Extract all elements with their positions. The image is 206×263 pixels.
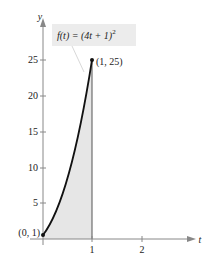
- y-tick-label: 15: [28, 126, 38, 137]
- shaded-area: [43, 60, 92, 239]
- point-label-start: (0, 1): [18, 227, 40, 239]
- function-label-text: f(t) = (4t + 1): [57, 30, 113, 42]
- y-tick-label: 20: [28, 90, 38, 101]
- x-tick-label: 1: [90, 244, 95, 255]
- point-end: [90, 58, 94, 62]
- x-tick-label: 2: [140, 244, 145, 255]
- point-start: [41, 233, 45, 237]
- y-tick-label: 5: [33, 197, 38, 208]
- function-exponent: 2: [112, 28, 116, 36]
- y-tick-label: 25: [28, 54, 38, 65]
- point-label-end: (1, 25): [96, 56, 123, 68]
- x-axis-arrow-icon: [187, 236, 196, 242]
- label-leader-line: [72, 46, 84, 72]
- function-label: f(t) = (4t + 1)2: [57, 28, 116, 42]
- x-axis-label: t: [199, 234, 202, 245]
- chart: y t 25 20 15 10 5 1 2 (1, 25) (0, 1) f(t…: [0, 0, 206, 263]
- y-tick-label: 10: [28, 162, 38, 173]
- y-axis-label: y: [37, 11, 43, 22]
